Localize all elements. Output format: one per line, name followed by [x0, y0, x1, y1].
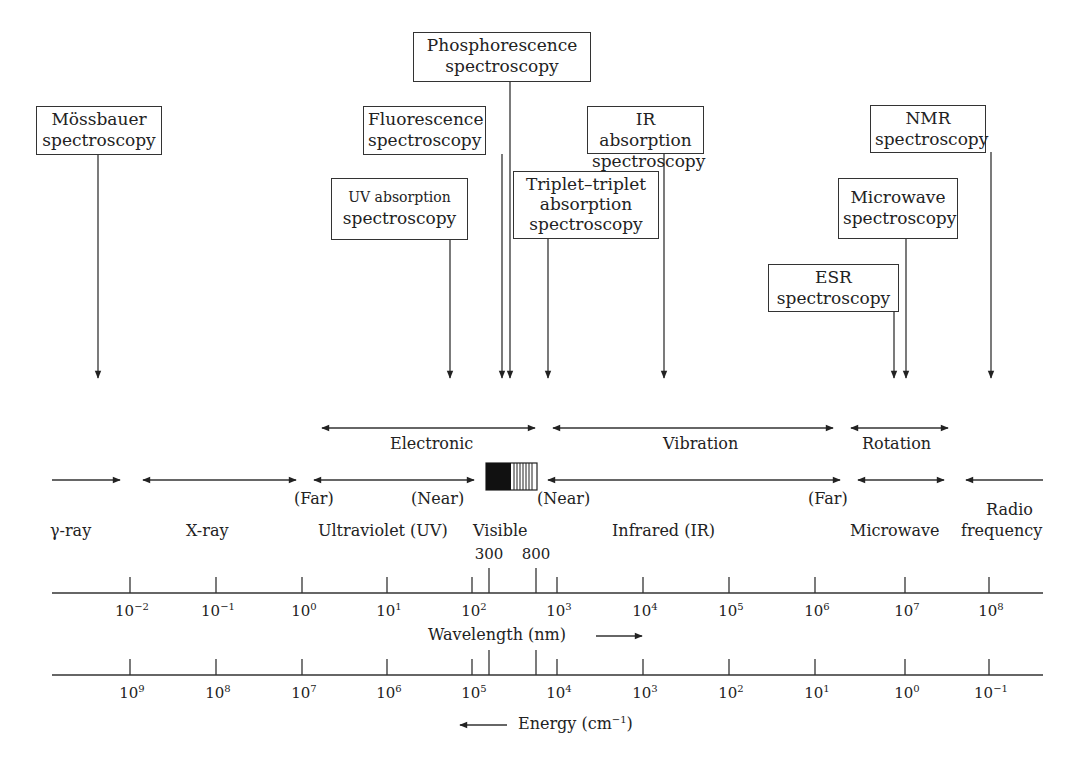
wavelength-tick-label: 103 [546, 601, 571, 620]
wavelength-tick-label: 107 [894, 601, 919, 620]
triplet-line2: absorption [518, 194, 654, 214]
energy-axis-label: Energy (cm−1) [518, 714, 633, 733]
energy-tick-label: 104 [546, 683, 571, 702]
ir-absorption-line2: spectroscopy [592, 151, 699, 172]
energy-tick-label: 101 [804, 683, 829, 702]
uv-absorption-line2: spectroscopy [336, 208, 463, 229]
wavelength-tick-label: 100 [291, 601, 316, 620]
phosphorescence-line2: spectroscopy [418, 56, 586, 77]
fluorescence-line1: Fluorescence [368, 109, 481, 130]
phosphorescence-spectroscopy-box: Phosphorescence spectroscopy [413, 32, 591, 82]
energy-tick-label: 102 [718, 683, 743, 702]
energy-tick-label: 105 [461, 683, 486, 702]
radio-label-line2: frequency [961, 521, 1042, 540]
microwave-spec-line1: Microwave [843, 187, 953, 208]
uv-far-label: (Far) [294, 489, 334, 508]
wavelength-tick-label: 105 [718, 601, 743, 620]
energy-tick-label: 107 [291, 683, 316, 702]
ir-absorption-line1: IR absorption [592, 109, 699, 151]
wavelength-tick-label: 10−2 [115, 601, 149, 620]
energy-tick-label: 100 [894, 683, 919, 702]
energy-tick-label: 10−1 [974, 683, 1008, 702]
nmr-line1: NMR [875, 108, 981, 129]
visible-spectrum-block [486, 463, 537, 490]
wavelength-tick-label: 108 [978, 601, 1003, 620]
wavelength-tick-label: 10−1 [201, 601, 235, 620]
triplet-line1: Triplet–triplet [518, 174, 654, 194]
electronic-label: Electronic [390, 434, 473, 453]
microwave-label: Microwave [850, 521, 939, 540]
uv-absorption-line1: UV absorption [336, 187, 463, 208]
ir-absorption-spectroscopy-box: IR absorption spectroscopy [587, 106, 704, 154]
wavelength-tick-label: 102 [461, 601, 486, 620]
microwave-spec-line2: spectroscopy [843, 208, 953, 229]
energy-tick-label: 108 [205, 683, 230, 702]
mossbauer-spectroscopy-box: Mössbauer spectroscopy [36, 106, 162, 155]
microwave-spectroscopy-box: Microwave spectroscopy [838, 178, 958, 239]
triplet-triplet-absorption-spectroscopy-box: Triplet–triplet absorption spectroscopy [513, 171, 659, 239]
radio-label-line1: Radio [986, 500, 1033, 519]
esr-line1: ESR [773, 267, 894, 288]
visible-label: Visible [473, 521, 528, 540]
energy-tick-label: 109 [119, 683, 144, 702]
infrared-label: Infrared (IR) [612, 521, 715, 540]
esr-line2: spectroscopy [773, 288, 894, 309]
mossbauer-line1: Mössbauer [41, 109, 157, 130]
nmr-line2: spectroscopy [875, 129, 981, 150]
energy-tick-label: 106 [376, 683, 401, 702]
gamma-ray-label: γ-ray [50, 521, 91, 540]
energy-tick-label: 103 [632, 683, 657, 702]
fluorescence-line2: spectroscopy [368, 130, 481, 151]
esr-spectroscopy-box: ESR spectroscopy [768, 264, 899, 312]
rotation-label: Rotation [862, 434, 931, 453]
triplet-line3: spectroscopy [518, 214, 654, 234]
wavelength-tick-label: 101 [376, 601, 401, 620]
wavelength-tick-label: 106 [804, 601, 829, 620]
visible-800-label: 800 [522, 545, 551, 563]
mossbauer-line2: spectroscopy [41, 130, 157, 151]
wavelength-tick-label: 104 [632, 601, 657, 620]
visible-300-label: 300 [475, 545, 504, 563]
xray-label: X-ray [186, 521, 228, 540]
uv-near-label: (Near) [411, 489, 464, 508]
vibration-label: Vibration [663, 434, 738, 453]
phosphorescence-line1: Phosphorescence [418, 35, 586, 56]
nmr-spectroscopy-box: NMR spectroscopy [870, 105, 986, 153]
ir-near-label: (Near) [537, 489, 590, 508]
ultraviolet-label: Ultraviolet (UV) [318, 521, 448, 540]
ir-far-label: (Far) [808, 489, 848, 508]
wavelength-axis-label: Wavelength (nm) [428, 625, 566, 644]
fluorescence-spectroscopy-box: Fluorescence spectroscopy [363, 106, 486, 155]
uv-absorption-spectroscopy-box: UV absorption spectroscopy [331, 178, 468, 240]
